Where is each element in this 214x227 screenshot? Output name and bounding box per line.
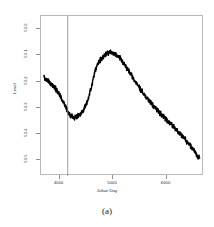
x-tick-label: 5000 (100, 180, 124, 185)
x-tick-label: 4000 (47, 180, 71, 185)
plot-area (40, 15, 203, 175)
y-tick-mark (36, 107, 40, 108)
y-tick-label: 53.4 (23, 124, 28, 142)
y-tick-label: 53.5 (23, 150, 28, 168)
y-tick-label: 53.1 (23, 45, 28, 63)
y-tick-label: 53.3 (23, 97, 28, 115)
x-tick-label: 6000 (154, 180, 178, 185)
series-level (41, 16, 204, 176)
y-tick-mark (36, 133, 40, 134)
y-tick-label: 53.2 (23, 71, 28, 89)
y-tick-mark (36, 54, 40, 55)
y-tick-mark (36, 28, 40, 29)
x-axis-title: Julian Day (0, 188, 214, 193)
y-tick-mark (36, 159, 40, 160)
figure-caption: (a) (0, 206, 214, 216)
y-tick-label: 53.0 (23, 19, 28, 37)
x-tick-mark (112, 175, 113, 179)
x-tick-mark (166, 175, 167, 179)
y-tick-mark (36, 81, 40, 82)
x-tick-mark (59, 175, 60, 179)
y-axis-title: Level (12, 74, 17, 104)
figure-container: 53.053.153.253.353.453.5 400050006000 Le… (0, 0, 214, 227)
